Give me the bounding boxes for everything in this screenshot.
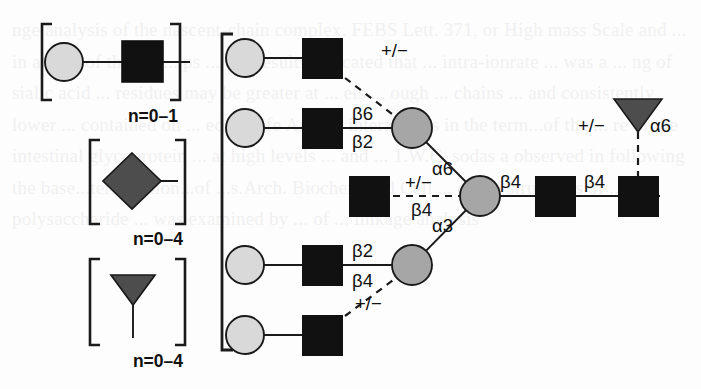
bond-lines — [245, 58, 660, 335]
label-mid-plusminus: +/− — [405, 172, 432, 193]
galactose-circle-g1 — [45, 43, 83, 81]
repeat-group-1: n=0–1 — [42, 24, 190, 126]
repeat-group-3: n=0–4 — [90, 259, 185, 371]
core-square-2 — [618, 176, 659, 217]
repeat-count-1: n=0–1 — [128, 106, 178, 126]
branch-1-circle — [226, 39, 264, 77]
repeat-count-3: n=0–4 — [133, 351, 183, 371]
bracket-left-3 — [90, 259, 100, 345]
branch-2-square — [302, 108, 343, 149]
label-mid-beta4: β4 — [411, 199, 432, 220]
branch-bracket — [222, 34, 233, 350]
upper-antenna-mannose — [392, 108, 432, 148]
figure-canvas: nge analysis of the nascent-chain comple… — [0, 0, 701, 389]
glcnac-square-g1 — [122, 41, 163, 82]
label-beta2-lower: β2 — [352, 240, 373, 261]
branch-1-square — [302, 38, 343, 79]
core-square-1 — [535, 176, 576, 217]
bracket-right-2 — [175, 140, 185, 224]
branch-2-circle — [226, 109, 264, 147]
repeat-group-2: n=0–4 — [90, 140, 185, 249]
glycan-diagram-svg: n=0–1 n=0–4 n=0–4 — [0, 0, 701, 389]
label-lower-plusminus: +/− — [355, 293, 382, 314]
branch-3-circle — [226, 246, 264, 284]
label-beta2-upper: β2 — [352, 131, 373, 152]
fucose-triangle-g3 — [111, 275, 155, 305]
label-beta4-lower: β4 — [352, 270, 373, 291]
branch-4-circle — [226, 316, 264, 354]
label-beta4-core1: β4 — [500, 171, 521, 192]
label-fucose-alpha6: α6 — [650, 115, 671, 136]
label-alpha3: α3 — [432, 215, 453, 236]
sialic-acid-diamond-g2 — [103, 153, 161, 209]
core-mannose — [460, 176, 500, 216]
lower-antenna-mannose — [392, 245, 432, 285]
branch-3-square — [302, 245, 343, 286]
label-beta4-core2: β4 — [584, 171, 605, 192]
label-fucose-plusminus: +/− — [578, 115, 605, 136]
repeat-count-2: n=0–4 — [133, 229, 183, 249]
nodes — [226, 38, 662, 356]
bracket-left-2 — [90, 140, 100, 224]
label-beta6: β6 — [352, 103, 373, 124]
label-upper-plusminus: +/− — [381, 40, 408, 61]
bisecting-square — [349, 176, 390, 217]
label-alpha6: α6 — [432, 158, 453, 179]
bracket-right-3 — [175, 259, 185, 345]
branch-4-square — [302, 315, 343, 356]
